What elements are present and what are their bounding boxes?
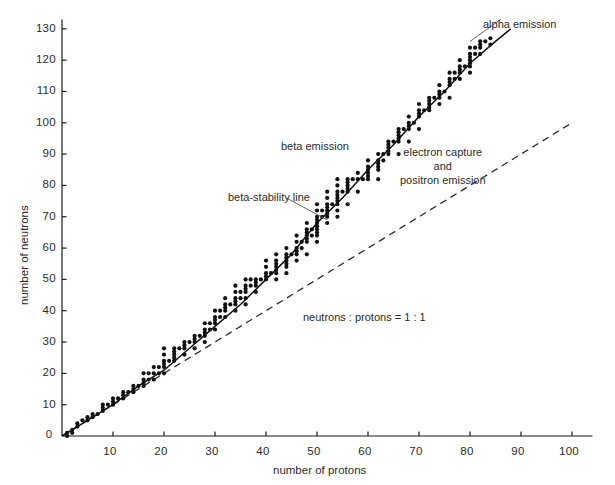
x-tick-label-10: 10 [90,445,130,457]
annotation-electron-capture: electron capture and positron emission [400,145,486,187]
x-tick-label-100: 100 [549,445,589,457]
x-tick-label-50: 50 [294,445,334,457]
plot-area [0,0,615,485]
annotation-beta-emission: beta emission [281,139,349,153]
x-tick-label-90: 90 [498,445,538,457]
y-tick-label-100: 100 [26,116,56,128]
annotation-leader-lines [286,19,500,219]
y-tick-label-40: 40 [26,304,56,316]
y-tick-label-10: 10 [26,398,56,410]
annotation-neutron-proton-ratio: neutrons : protons = 1 : 1 [303,310,426,324]
annotation-electron-capture-line2: and [400,159,486,173]
y-tick-label-60: 60 [26,241,56,253]
annotation-alpha-emission: alpha emission [483,17,556,31]
stable-nuclide-points [65,36,493,438]
y-tick-label-130: 130 [26,22,56,34]
annotation-electron-capture-line3: positron emission [400,173,486,187]
x-tick-label-20: 20 [141,445,181,457]
nuclide-stability-chart: 0102030405060708090100102030405060708090… [0,0,615,485]
y-tick-label-30: 30 [26,335,56,347]
x-tick-label-0: 0 [29,428,69,440]
annotation-electron-capture-line1: electron capture [400,145,486,159]
x-tick-label-40: 40 [243,445,283,457]
y-tick-label-80: 80 [26,178,56,190]
y-tick-label-110: 110 [26,84,56,96]
x-tick-label-30: 30 [192,445,232,457]
annotation-beta-stability-line: beta-stability line [228,190,310,204]
x-axis-title: number of protons [273,464,366,476]
y-axis-title: number of neutrons [18,205,30,305]
one-to-one-reference-line [62,123,572,436]
y-tick-label-70: 70 [26,210,56,222]
x-tick-label-80: 80 [447,445,487,457]
y-tick-label-90: 90 [26,147,56,159]
y-tick-label-50: 50 [26,272,56,284]
x-tick-label-70: 70 [396,445,436,457]
x-tick-label-60: 60 [345,445,385,457]
y-tick-label-20: 20 [26,366,56,378]
y-tick-label-120: 120 [26,53,56,65]
